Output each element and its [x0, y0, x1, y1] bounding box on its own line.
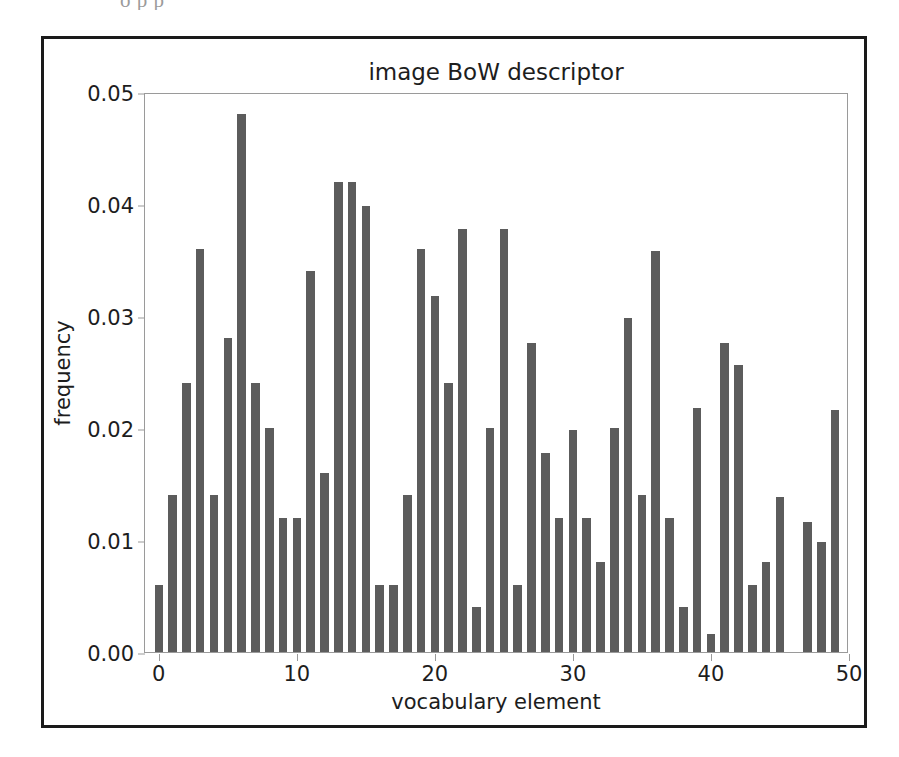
- bar: [776, 497, 785, 652]
- bar: [444, 383, 453, 652]
- bar: [389, 585, 398, 652]
- bar: [582, 518, 591, 652]
- x-tick-label: 10: [283, 652, 310, 686]
- bar: [707, 634, 716, 652]
- bar: [500, 229, 509, 652]
- bar: [417, 249, 426, 652]
- page-title: image BoW descriptor: [144, 59, 848, 85]
- bar: [168, 495, 177, 652]
- bar: [210, 495, 219, 652]
- bar: [513, 585, 522, 652]
- y-tick-label: 0.03: [87, 306, 145, 330]
- bar: [279, 518, 288, 652]
- y-tick-label: 0.00: [87, 642, 145, 666]
- bar-series: [145, 94, 847, 652]
- bar: [403, 495, 412, 652]
- bar: [486, 428, 495, 652]
- bar: [265, 428, 274, 652]
- y-tick-label: 0.05: [87, 82, 145, 106]
- bar: [762, 562, 771, 652]
- bar: [569, 430, 578, 652]
- bar: [348, 182, 357, 652]
- bar: [817, 542, 826, 652]
- bar: [182, 383, 191, 652]
- bar: [472, 607, 481, 652]
- bar: [734, 365, 743, 652]
- x-axis-label: vocabulary element: [144, 690, 848, 714]
- bar: [306, 271, 315, 652]
- bar: [831, 410, 840, 652]
- bar: [720, 343, 729, 652]
- bar: [362, 206, 371, 652]
- y-tick-label: 0.01: [87, 530, 145, 554]
- bar: [624, 318, 633, 652]
- x-tick-label: 30: [560, 652, 587, 686]
- bar: [541, 453, 550, 652]
- plot-axes: 0.000.010.020.030.040.05 01020304050: [144, 93, 848, 653]
- bar: [748, 585, 757, 652]
- bar: [527, 343, 536, 652]
- bar: [224, 338, 233, 652]
- bar: [458, 229, 467, 652]
- scan-artifact-text: o p p: [120, 0, 640, 10]
- bar: [596, 562, 605, 652]
- bar: [610, 428, 619, 652]
- bar: [196, 249, 205, 652]
- bar: [375, 585, 384, 652]
- bar: [651, 251, 660, 652]
- y-axis-label: frequency: [50, 93, 76, 653]
- bar: [555, 518, 564, 652]
- bar: [237, 114, 246, 652]
- y-tick-label: 0.04: [87, 194, 145, 218]
- x-tick-label: 50: [836, 652, 863, 686]
- bar: [431, 296, 440, 652]
- bar: [251, 383, 260, 652]
- bar: [665, 518, 674, 652]
- x-tick-label: 40: [698, 652, 725, 686]
- bar: [293, 518, 302, 652]
- bar: [679, 607, 688, 652]
- bar: [803, 522, 812, 652]
- bar: [320, 473, 329, 652]
- y-tick-label: 0.02: [87, 418, 145, 442]
- bar: [638, 495, 647, 652]
- bar: [693, 408, 702, 652]
- bar: [155, 585, 164, 652]
- x-tick-label: 20: [422, 652, 449, 686]
- figure-frame: image BoW descriptor frequency 0.000.010…: [41, 36, 867, 728]
- y-axis-label-text: frequency: [51, 320, 75, 425]
- bar: [334, 182, 343, 652]
- x-tick-label: 0: [152, 652, 165, 686]
